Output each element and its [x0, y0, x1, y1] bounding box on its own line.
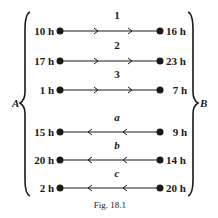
right-time: 20 h: [166, 182, 186, 194]
edge-3: 3 1 h 7 h: [40, 68, 187, 96]
right-time: 23 h: [166, 55, 186, 67]
group-label-a: A: [11, 97, 19, 109]
left-time: 17 h: [34, 55, 54, 67]
left-time: 1 h: [40, 84, 54, 96]
edge-a: a 15 h 9 h: [34, 111, 187, 138]
figure-caption: Fig. 18.1: [94, 200, 126, 210]
right-brace: [188, 12, 198, 196]
node-dot: [157, 129, 164, 136]
edge-1: 1 10 h 16 h: [34, 9, 186, 37]
edge-label: 2: [114, 39, 120, 51]
node-dot: [57, 58, 64, 65]
node-dot: [157, 185, 164, 192]
left-brace: [20, 12, 30, 196]
left-time: 10 h: [34, 25, 54, 37]
edge-label: 3: [114, 68, 120, 80]
edge-label: a: [114, 111, 120, 123]
edge-c: c 2 h 20 h: [40, 167, 186, 194]
node-dot: [57, 28, 64, 35]
node-dot: [57, 157, 64, 164]
node-dot: [157, 157, 164, 164]
diagram-canvas: A B 1 10 h 16 h 2 17 h 23 h 3 1 h 7 h a: [0, 0, 218, 218]
node-dot: [157, 87, 164, 94]
node-dot: [157, 28, 164, 35]
right-time: 16 h: [166, 25, 186, 37]
group-label-b: B: [199, 97, 207, 109]
edge-label: 1: [114, 9, 120, 21]
left-time: 15 h: [34, 126, 54, 138]
edge-2: 2 17 h 23 h: [34, 39, 186, 67]
node-dot: [157, 58, 164, 65]
left-time: 20 h: [34, 154, 54, 166]
node-dot: [57, 129, 64, 136]
right-time: 14 h: [166, 154, 186, 166]
left-time: 2 h: [40, 182, 54, 194]
edge-label: c: [115, 167, 120, 179]
right-time: 7 h: [173, 84, 187, 96]
right-time: 9 h: [173, 126, 187, 138]
edge-b: b 20 h 14 h: [34, 139, 186, 166]
edge-label: b: [114, 139, 120, 151]
node-dot: [57, 87, 64, 94]
node-dot: [57, 185, 64, 192]
